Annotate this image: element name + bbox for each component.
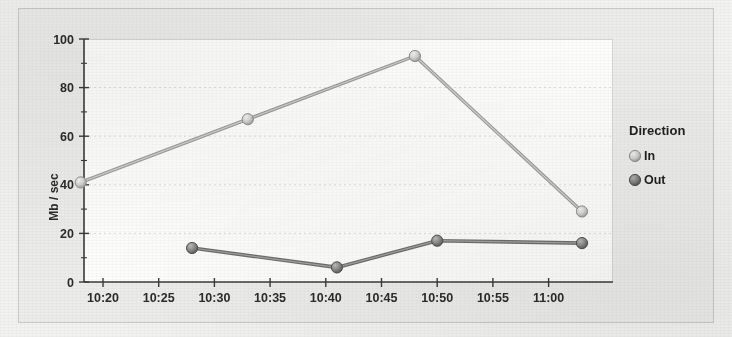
y-tick-label: 60 — [60, 130, 74, 144]
data-point-marker — [409, 50, 420, 61]
series-line — [81, 56, 582, 212]
data-point-marker — [242, 114, 253, 125]
series-line-highlight — [81, 56, 582, 212]
x-tick-label: 10:35 — [254, 291, 286, 305]
x-tick-label: 10:55 — [477, 291, 509, 305]
x-tick-label: 11:00 — [533, 291, 564, 305]
y-gridlines — [84, 39, 613, 233]
legend-label-out: Out — [644, 173, 666, 187]
y-tick-label: 40 — [60, 178, 74, 192]
series-in — [75, 50, 588, 217]
data-point-marker — [576, 206, 587, 217]
x-axis — [84, 278, 613, 287]
x-tick-label: 10:30 — [198, 291, 230, 305]
series-out — [187, 235, 588, 273]
y-axis-title: Mb / sec — [47, 173, 61, 221]
x-tick-label: 10:45 — [366, 291, 398, 305]
legend-title: Direction — [629, 123, 685, 138]
data-point-marker — [576, 238, 587, 249]
legend: DirectionInOut — [629, 123, 685, 187]
x-tick-label: 10:40 — [310, 291, 342, 305]
y-tick-label: 80 — [60, 81, 74, 95]
legend-label-in: In — [644, 149, 655, 163]
legend-marker-out — [629, 174, 640, 185]
y-tick-label: 100 — [53, 33, 74, 47]
x-tick-label: 10:20 — [87, 291, 119, 305]
legend-marker-in — [629, 150, 640, 161]
data-point-marker — [331, 262, 342, 273]
data-point-marker — [432, 235, 443, 246]
x-tick-label: 10:50 — [421, 291, 453, 305]
y-axis — [79, 39, 89, 282]
x-axis-tick-labels: 10:2010:2510:3010:3510:4010:4510:5010:55… — [87, 291, 564, 305]
y-tick-label: 20 — [60, 227, 74, 241]
line-chart: 020406080100 10:2010:2510:3010:3510:4010… — [0, 0, 732, 337]
data-point-marker — [75, 177, 86, 188]
chart-screenshot: 020406080100 10:2010:2510:3010:3510:4010… — [0, 0, 732, 337]
x-tick-label: 10:25 — [143, 291, 175, 305]
data-point-marker — [187, 242, 198, 253]
y-tick-label: 0 — [67, 276, 74, 290]
y-axis-tick-labels: 020406080100 — [53, 33, 74, 290]
